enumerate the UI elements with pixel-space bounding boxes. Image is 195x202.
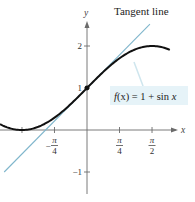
x-tick-label: π4− xyxy=(45,135,58,156)
tangent-line-figure: x y π4−π4π2 21−1 f(x) = 1 + sin x Tangen… xyxy=(0,0,195,202)
svg-text:2: 2 xyxy=(150,146,155,156)
y-tick-label: 2 xyxy=(78,41,83,51)
tangent-line-label: Tangent line xyxy=(114,5,169,17)
function-arg: (x) xyxy=(117,91,130,103)
svg-text:−: − xyxy=(45,141,50,151)
y-axis-arrow-icon xyxy=(85,21,90,28)
svg-text:π: π xyxy=(117,135,122,145)
function-expression: = 1 + sin xyxy=(129,91,171,102)
x-ticks: π4−π4π2 xyxy=(22,127,156,156)
tangency-point xyxy=(85,86,90,91)
x-axis-label: x xyxy=(180,125,186,135)
plot-area: x y π4−π4π2 21−1 f(x) = 1 + sin x Tangen… xyxy=(0,0,195,202)
x-tick-label: π2 xyxy=(149,135,156,156)
svg-text:π: π xyxy=(150,135,155,145)
function-label-leader xyxy=(134,62,143,86)
y-tick-label: 1 xyxy=(78,83,83,93)
svg-text:4: 4 xyxy=(117,146,122,156)
svg-text:π: π xyxy=(52,135,57,145)
y-axis-label: y xyxy=(83,8,89,18)
svg-text:4: 4 xyxy=(52,146,57,156)
x-axis-arrow-icon xyxy=(171,128,178,133)
function-label: f(x) = 1 + sin x xyxy=(114,91,177,103)
y-tick-label: −1 xyxy=(72,167,82,177)
function-variable: x xyxy=(171,91,177,102)
x-tick-label: π4 xyxy=(116,135,123,156)
